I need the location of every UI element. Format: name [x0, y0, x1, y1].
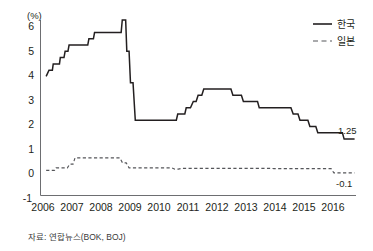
annotation-japan-value: -0.1 [336, 179, 352, 189]
y-tick-label-0: 0 [20, 168, 34, 179]
chart-series-group [46, 20, 354, 173]
x-tick-label-2016: 2016 [316, 202, 350, 213]
y-tick-label-6: 6 [20, 21, 34, 32]
y-tick-label-4: 4 [20, 70, 34, 81]
y-tick-label-2: 2 [20, 119, 34, 130]
legend-label-korea: 한국 [337, 20, 355, 30]
interest-rate-chart: (%) 6 5 4 3 2 1 0 -1 2006 2007 2008 2009… [0, 0, 373, 251]
y-tick-label-5: 5 [20, 46, 34, 57]
legend-label-japan: 일본 [337, 37, 355, 47]
y-tick-label-3: 3 [20, 95, 34, 106]
chart-canvas [0, 0, 373, 251]
annotation-korea-value: 1.25 [338, 126, 357, 136]
series-line-korea [46, 20, 354, 139]
series-line-japan [46, 158, 354, 173]
chart-legend-lines [313, 24, 332, 41]
y-tick-label-1: 1 [20, 144, 34, 155]
source-note: 자료: 연합뉴스(BOK, BOJ) [28, 233, 126, 242]
